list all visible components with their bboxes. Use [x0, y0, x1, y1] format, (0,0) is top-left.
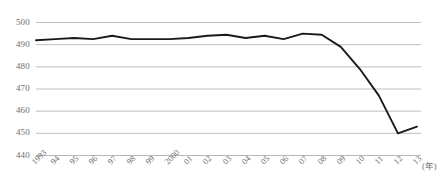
y-axis-tick-label: 500: [4, 18, 30, 27]
line-chart: 500490480470460450440 199394959697989920…: [0, 0, 442, 196]
y-axis-tick-label: 480: [4, 62, 30, 71]
chart-plot-area: [0, 0, 442, 196]
y-axis-tick-label: 490: [4, 40, 30, 49]
y-axis-tick-label: 450: [4, 128, 30, 137]
y-axis-tick-label: 460: [4, 106, 30, 115]
gridlines: [36, 23, 421, 156]
y-axis-tick-label: 470: [4, 84, 30, 93]
x-axis-unit-label: (年): [422, 162, 437, 171]
y-axis-tick-label: 440: [4, 151, 30, 160]
data-series-line: [36, 34, 417, 134]
